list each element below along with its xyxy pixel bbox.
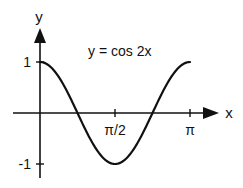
x-tick-label: π <box>185 122 195 138</box>
y-axis-label: y <box>35 8 43 25</box>
y-axis-arrow-icon <box>34 28 46 43</box>
x-tick-label: π/2 <box>104 122 126 138</box>
x-axis-arrow-icon <box>203 107 219 119</box>
cosine-chart: π/2π 1-1 y x y = cos 2x <box>0 0 243 188</box>
y-tick-label: 1 <box>23 54 31 70</box>
x-axis-label: x <box>225 104 233 121</box>
y-tick-label: -1 <box>19 156 32 172</box>
equation-annotation: y = cos 2x <box>88 43 151 59</box>
